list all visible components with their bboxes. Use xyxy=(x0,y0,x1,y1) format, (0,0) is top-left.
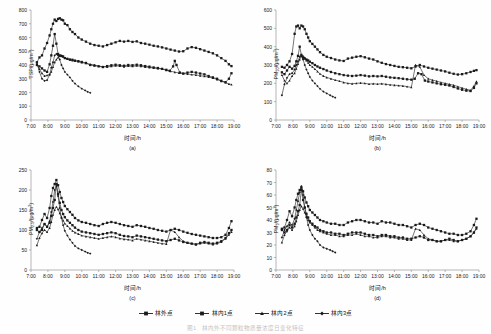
legend-item: 林外点 xyxy=(139,309,174,317)
series-markers xyxy=(36,179,233,239)
y-tick-label: 500 xyxy=(245,25,272,31)
y-axis-label: PM1/(μg/m3) xyxy=(273,185,279,253)
subplot-tag: (a) xyxy=(31,145,234,151)
series-line xyxy=(282,186,335,252)
series-line xyxy=(37,186,90,254)
x-tick-label: 8:00 xyxy=(285,273,301,279)
series-line xyxy=(37,34,232,82)
figure-legend: 林外点林内1点林内2点林内3点 xyxy=(0,309,491,317)
x-axis-label: 时间/h xyxy=(276,134,479,142)
x-tick-label: 16:00 xyxy=(420,273,436,279)
y-tick-label: 600 xyxy=(0,35,27,41)
y-tick-label: 400 xyxy=(0,62,27,68)
x-tick-label: 15:00 xyxy=(403,273,419,279)
legend-marker-icon xyxy=(195,310,209,317)
x-tick-label: 10:00 xyxy=(319,123,335,129)
series-line xyxy=(282,206,477,242)
legend-marker-icon xyxy=(315,310,329,317)
x-tick-label: 18:00 xyxy=(454,123,470,129)
series-markers xyxy=(36,17,233,67)
series-line xyxy=(282,26,477,75)
x-tick-label: 15:00 xyxy=(158,123,174,129)
x-tick-label: 16:00 xyxy=(175,273,191,279)
x-tick-label: 18:00 xyxy=(209,123,225,129)
legend-marker-icon xyxy=(255,310,269,317)
y-tick-label: 700 xyxy=(0,21,27,27)
y-axis-label: PM2.5/(μg/m3) xyxy=(28,185,34,253)
series-markers xyxy=(281,189,478,243)
series-markers xyxy=(36,54,233,85)
y-axis-label: PM10/(μg/m3) xyxy=(273,30,279,98)
y-tick-label: 50 xyxy=(245,205,272,211)
subplot-tag: (d) xyxy=(276,295,479,301)
x-tick-label: 12:00 xyxy=(108,273,124,279)
x-tick-label: 16:00 xyxy=(175,123,191,129)
series-line xyxy=(37,180,232,238)
legend-label: 林外点 xyxy=(155,309,173,317)
x-tick-label: 7:00 xyxy=(23,123,39,129)
x-tick-label: 11:00 xyxy=(91,123,107,129)
x-tick-label: 7:00 xyxy=(268,273,284,279)
x-axis-label: 时间/h xyxy=(31,134,234,142)
series-line xyxy=(282,47,477,91)
subplot-tag: (c) xyxy=(31,295,234,301)
series-markers xyxy=(281,185,337,254)
x-tick-label: 14:00 xyxy=(386,123,402,129)
series-line xyxy=(37,184,232,244)
y-tick-label: 250 xyxy=(0,167,27,173)
x-tick-label: 11:00 xyxy=(91,273,107,279)
x-tick-label: 18:00 xyxy=(209,273,225,279)
y-tick-label: 70 xyxy=(245,180,272,186)
x-tick-label: 9:00 xyxy=(57,273,73,279)
series-line xyxy=(37,55,232,84)
x-tick-label: 15:00 xyxy=(403,123,419,129)
series-line xyxy=(282,190,477,241)
y-tick-label: 10 xyxy=(245,255,272,261)
legend-label: 林内2点 xyxy=(271,309,292,317)
y-axis-label: TSP/(μg/m3) xyxy=(28,30,34,98)
x-tick-label: 8:00 xyxy=(285,123,301,129)
x-tick-label: 11:00 xyxy=(336,273,352,279)
subplot-a: 01002003004005006007008007:008:009:0010:… xyxy=(0,2,246,160)
x-tick-label: 13:00 xyxy=(370,123,386,129)
series-line xyxy=(37,54,90,93)
figure-caption: 图1 林内外不同颗粒物质量浓度日变化特征 xyxy=(0,324,491,334)
y-tick-label: 600 xyxy=(245,7,272,13)
x-tick-label: 7:00 xyxy=(23,273,39,279)
x-tick-label: 13:00 xyxy=(370,273,386,279)
x-tick-label: 17:00 xyxy=(192,273,208,279)
series-line xyxy=(282,188,477,236)
subplot-b: 01002003004005006007:008:009:0010:0011:0… xyxy=(245,2,491,160)
legend-item: 林内2点 xyxy=(255,309,293,317)
x-axis-label: 时间/h xyxy=(31,284,234,292)
y-tick-label: 60 xyxy=(245,192,272,198)
y-tick-label: 100 xyxy=(245,99,272,105)
series-line xyxy=(37,18,232,66)
x-tick-label: 13:00 xyxy=(125,273,141,279)
x-tick-label: 19:00 xyxy=(226,273,242,279)
figure-container: 01002003004005006007008007:008:009:0010:… xyxy=(0,0,491,334)
legend-label: 林内3点 xyxy=(331,309,352,317)
x-tick-label: 7:00 xyxy=(268,123,284,129)
y-tick-label: 40 xyxy=(245,217,272,223)
subplot-c: 0501001502002507:008:009:0010:0011:0012:… xyxy=(0,162,246,310)
x-tick-label: 14:00 xyxy=(386,273,402,279)
x-tick-label: 12:00 xyxy=(108,123,124,129)
x-tick-label: 10:00 xyxy=(319,273,335,279)
subplot-d: 010203040506070807:008:009:0010:0011:001… xyxy=(245,162,491,310)
x-tick-label: 10:00 xyxy=(74,123,90,129)
x-tick-label: 19:00 xyxy=(471,273,487,279)
y-tick-label: 800 xyxy=(0,7,27,13)
y-tick-label: 80 xyxy=(245,167,272,173)
series-markers xyxy=(281,186,478,236)
y-tick-label: 400 xyxy=(245,44,272,50)
x-tick-label: 12:00 xyxy=(353,273,369,279)
y-tick-label: 30 xyxy=(245,230,272,236)
y-tick-label: 50 xyxy=(0,247,27,253)
series-markers xyxy=(36,185,92,255)
x-tick-label: 11:00 xyxy=(336,123,352,129)
legend-item: 林内3点 xyxy=(315,309,353,317)
y-tick-label: 200 xyxy=(245,80,272,86)
legend-label: 林内1点 xyxy=(212,309,233,317)
x-tick-label: 9:00 xyxy=(57,123,73,129)
